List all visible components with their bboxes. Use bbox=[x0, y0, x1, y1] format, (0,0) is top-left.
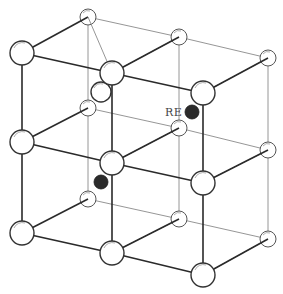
atom-front-bot-right bbox=[191, 263, 215, 287]
re-dopant-lower bbox=[94, 175, 108, 189]
back-bonds bbox=[88, 17, 268, 275]
atom-front-bot-left bbox=[10, 221, 34, 245]
re-label: RE bbox=[165, 106, 182, 119]
atom-front-mid-right bbox=[191, 171, 215, 195]
front-atoms bbox=[10, 41, 215, 287]
atom-front-mid-left bbox=[10, 130, 34, 154]
atom-front-top-left bbox=[10, 41, 34, 65]
atom-front-top-mid bbox=[100, 61, 124, 85]
atom-front-top-right bbox=[191, 81, 215, 105]
re-dopant-upper bbox=[185, 105, 199, 119]
front-bonds bbox=[22, 37, 268, 275]
left-depth-bonds bbox=[22, 17, 112, 233]
atom-front-mid-mid bbox=[100, 151, 124, 175]
crystal-lattice-diagram: RE bbox=[0, 0, 283, 294]
atom-front-bot-mid bbox=[100, 241, 124, 265]
dopant-atoms bbox=[94, 105, 199, 189]
